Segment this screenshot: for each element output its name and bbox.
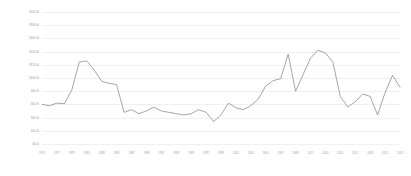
x-axis-tick-label: 1991 — [158, 152, 164, 156]
series-line-price — [42, 12, 400, 144]
x-axis-tick-label: 1989 — [143, 152, 149, 156]
y-axis-tick-labels: $200.00$180.00$160.00$140.00$120.00$100.… — [0, 0, 42, 176]
x-axis-tick-label: 1975 — [39, 152, 45, 156]
x-axis-tick-label: 2007 — [278, 152, 284, 156]
x-axis-tick-label: 1983 — [99, 152, 105, 156]
y-axis-tick-label: $200.00 — [29, 11, 39, 14]
x-axis-tick-label: 2021 — [382, 152, 388, 156]
x-axis-tick-labels: 1975197719791981198319851987198919911993… — [42, 152, 400, 164]
y-axis-tick-label: $20.00 — [31, 129, 39, 132]
y-axis-tick-label: $80.00 — [31, 90, 39, 93]
y-axis-tick-label: $40.00 — [31, 116, 39, 119]
x-axis-tick-label: 2009 — [293, 152, 299, 156]
x-axis-tick-label: 2015 — [337, 152, 343, 156]
x-axis-tick-label: 2011 — [308, 152, 314, 156]
gridline — [42, 144, 400, 145]
x-axis-tick-label: 1999 — [218, 152, 224, 156]
y-axis-tick-label: $180.00 — [29, 24, 39, 27]
x-axis-tick-label: 2023 — [397, 152, 403, 156]
y-axis-tick-label: $100.00 — [29, 77, 39, 80]
x-axis-tick-label: 1993 — [173, 152, 179, 156]
x-axis-tick-label: 2005 — [263, 152, 269, 156]
x-axis-tick-label: 1987 — [129, 152, 135, 156]
x-axis-tick-label: 2017 — [352, 152, 358, 156]
y-axis-tick-label: $140.00 — [29, 50, 39, 53]
y-axis-tick-label: $120.00 — [29, 63, 39, 66]
y-axis-tick-label: $0.00 — [32, 143, 39, 146]
y-axis-tick-label: $160.00 — [29, 37, 39, 40]
x-axis-tick-label: 1977 — [54, 152, 60, 156]
series-path — [42, 50, 400, 121]
x-axis-tick-label: 1981 — [84, 152, 90, 156]
x-axis-tick-label: 2003 — [248, 152, 254, 156]
x-axis-tick-label: 2001 — [233, 152, 239, 156]
y-axis-tick-label: $60.00 — [31, 103, 39, 106]
x-axis-tick-label: 1995 — [188, 152, 194, 156]
line-chart: $200.00$180.00$160.00$140.00$120.00$100.… — [0, 0, 411, 176]
x-axis-tick-label: 1997 — [203, 152, 209, 156]
x-axis-tick-label: 1979 — [69, 152, 75, 156]
x-axis-tick-label: 2019 — [367, 152, 373, 156]
x-axis-tick-label: 1985 — [114, 152, 120, 156]
x-axis-tick-label: 2013 — [322, 152, 328, 156]
plot-area — [42, 12, 400, 144]
